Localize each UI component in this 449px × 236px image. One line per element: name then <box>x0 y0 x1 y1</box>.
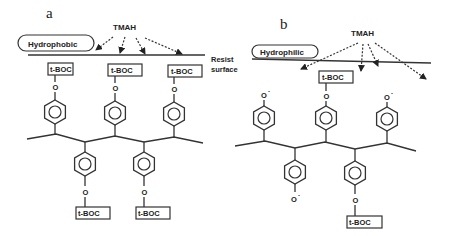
arrow-icon <box>368 44 378 66</box>
oxygen-label: O <box>142 188 148 197</box>
panel-label-b: b <box>280 16 288 32</box>
tboc-label: t-BOC <box>322 73 344 82</box>
negative-charge-label: - <box>298 192 300 198</box>
benzene-ring-icon <box>164 102 185 126</box>
benzene-ring-icon <box>345 161 366 185</box>
bottom-pendant-a2: O t-BOC <box>134 142 170 219</box>
arrow-icon <box>120 37 125 53</box>
bottom-pendant-a1: O t-BOC <box>75 142 110 219</box>
benzene-ring-icon <box>105 101 126 125</box>
arrow-icon <box>361 44 363 71</box>
benzene-ring-icon <box>285 160 306 184</box>
hydrophobic-label: Hydrophobic <box>28 40 78 49</box>
oxygen-label: O <box>172 85 178 94</box>
panel-a: a TMAH Hydrophobic Resist surface t-BOC … <box>18 5 238 219</box>
top-pendant-a3: t-BOC O <box>164 65 202 137</box>
tboc-label: t-BOC <box>111 66 133 75</box>
tboc-label: t-BOC <box>50 65 72 74</box>
top-pendant-a2: t-BOC O <box>105 64 142 136</box>
negative-charge-label: - <box>391 90 393 96</box>
tmah-arrows-a <box>96 37 182 54</box>
oxygen-label: O <box>384 93 390 102</box>
tmah-label-a: TMAH <box>113 23 136 32</box>
negative-charge-label: - <box>268 88 270 94</box>
oxygen-label: O <box>291 195 297 204</box>
oxygen-label: O <box>113 84 119 93</box>
benzene-ring-icon <box>45 100 66 124</box>
tboc-label: t-BOC <box>171 67 193 76</box>
panel-b: b TMAH Hydrophilic O - t-BOC O <box>235 16 431 228</box>
benzene-ring-icon <box>254 106 275 130</box>
resist-surface-line-b <box>252 59 431 63</box>
top-pendant-b1: O - <box>254 88 275 141</box>
polymer-backbone-b <box>235 141 416 151</box>
polymer-backbone-a <box>27 134 203 143</box>
top-pendant-b2: t-BOC O <box>316 71 353 142</box>
oxygen-label: O <box>83 188 89 197</box>
hydrophilic-label: Hydrophilic <box>260 48 305 57</box>
tboc-label: t-BOC <box>349 218 371 227</box>
bottom-pendant-b1: O - <box>285 148 306 204</box>
arrow-icon <box>145 38 182 54</box>
hydrophobic-badge: Hydrophobic <box>18 35 94 51</box>
top-pendant-b3: O - <box>377 90 398 143</box>
hydrophilic-badge: Hydrophilic <box>252 45 318 58</box>
oxygen-label: O <box>324 92 330 101</box>
oxygen-label: O <box>261 91 267 100</box>
bottom-pendant-b2: O t-BOC <box>345 149 382 228</box>
arrow-icon <box>96 37 113 50</box>
top-pendant-a1: t-BOC O <box>45 63 73 134</box>
benzene-ring-icon <box>134 152 155 176</box>
benzene-ring-icon <box>377 107 398 131</box>
arrow-icon <box>136 38 145 54</box>
panel-label-a: a <box>46 5 53 21</box>
oxygen-label: O <box>353 196 359 205</box>
benzene-ring-icon <box>75 152 96 176</box>
diagram-canvas: a TMAH Hydrophobic Resist surface t-BOC … <box>0 0 449 236</box>
oxygen-label: O <box>53 83 59 92</box>
benzene-ring-icon <box>316 106 337 130</box>
tboc-label: t-BOC <box>78 209 100 218</box>
resist-surface-label-line2: surface <box>211 65 238 74</box>
resist-surface-label-line1: Resist <box>211 55 234 64</box>
tboc-label: t-BOC <box>138 209 160 218</box>
tmah-label-b: TMAH <box>351 29 374 38</box>
arrow-icon <box>375 43 426 79</box>
